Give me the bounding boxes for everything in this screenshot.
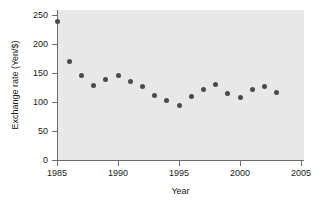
y-axis-title: Exchange rate (Yen/$) [9,10,21,160]
data-point [189,94,194,99]
data-point [250,87,255,92]
data-point [67,59,72,64]
x-tick-1985 [57,161,58,166]
data-point [79,73,84,78]
data-point [55,19,60,24]
data-point [213,82,218,87]
y-tick-label-200: 200 [33,40,48,49]
x-tick-label-1990: 1990 [108,169,128,178]
y-tick-100 [52,102,57,103]
x-tick-label-2000: 2000 [230,169,250,178]
y-tick-150 [52,73,57,74]
x-tick-label-1985: 1985 [47,169,67,178]
y-tick-label-100: 100 [33,98,48,107]
data-point [140,84,145,89]
data-point [128,79,133,84]
y-tick-50 [52,131,57,132]
y-tick-200 [52,44,57,45]
x-tick-1990 [118,161,119,166]
y-tick-label-250: 250 [33,11,48,20]
x-axis-line [57,160,304,161]
x-tick-2000 [240,161,241,166]
scatter-chart-figure: 050100150200250 19851990199520002005 Exc… [0,0,326,213]
y-tick-250 [52,15,57,16]
x-tick-label-1995: 1995 [169,169,189,178]
y-tick-label-150: 150 [33,69,48,78]
data-point [91,83,96,88]
data-point [238,95,243,100]
y-tick-label-0: 0 [43,156,48,165]
x-tick-1995 [179,161,180,166]
data-point [177,103,182,108]
y-tick-label-50: 50 [38,127,48,136]
x-tick-label-2005: 2005 [291,169,311,178]
y-axis-line [57,10,58,161]
x-tick-2005 [301,161,302,166]
data-point [116,73,121,78]
x-axis-title: Year [57,186,304,196]
